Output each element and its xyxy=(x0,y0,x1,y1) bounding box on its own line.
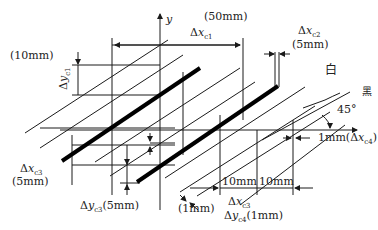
black-label: 黑 xyxy=(362,86,372,98)
dy-c3-label: Δyc3(5mm) xyxy=(80,200,139,216)
dx-c3-left-value: (5mm) xyxy=(12,176,48,188)
ten-mm-label-2: 10mm xyxy=(259,176,294,188)
dy-c1-label: Δyc1 xyxy=(58,67,74,90)
white-label: 白 xyxy=(325,64,337,76)
diagram-canvas xyxy=(0,0,378,230)
dy-c4-label: Δyc4(1mm) xyxy=(224,210,283,226)
top-width-label: (50mm) xyxy=(204,11,247,23)
y-axis-label: y xyxy=(166,14,172,26)
dx-c1-label: Δxc1 xyxy=(190,27,213,43)
black-bar-1 xyxy=(62,68,200,161)
dx-c4-label: 1mm(Δxc4) xyxy=(318,132,377,148)
ten-mm-label-1: 10mm xyxy=(222,176,257,188)
dx-c2-value: (5mm) xyxy=(292,39,328,51)
left-height-label: (10mm) xyxy=(10,50,53,62)
one-mm-label: (1mm) xyxy=(178,203,214,215)
angle-label: 45° xyxy=(337,104,357,116)
